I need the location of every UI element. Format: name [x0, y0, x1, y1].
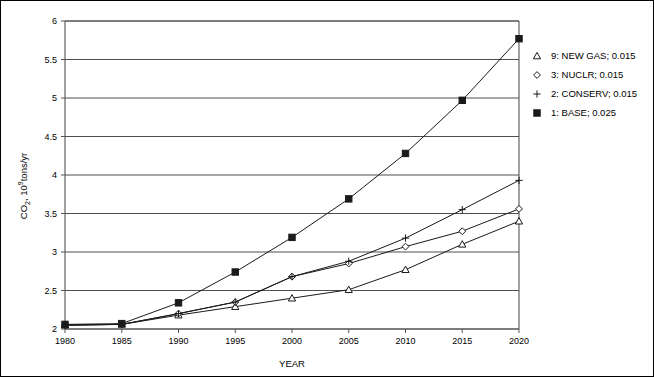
x-axis-title: YEAR: [279, 358, 305, 369]
svg-text:CO2, 109tons/yr: CO2, 109tons/yr: [17, 153, 31, 219]
data-point-base: [402, 150, 408, 156]
x-tick-label: 1995: [225, 336, 245, 346]
line-chart: 22.533.544.555.56 1980198519901995200020…: [1, 1, 654, 377]
series-nuclr: [62, 205, 523, 328]
series-line-conserv: [65, 180, 519, 325]
x-tick-label: 2010: [395, 336, 415, 346]
data-point-conserv: [459, 206, 466, 213]
x-tick-label: 1985: [112, 336, 132, 346]
data-point-nuclr: [459, 228, 466, 235]
y-axis-title-mid: , 10: [18, 185, 29, 201]
y-tick-label: 6: [52, 16, 57, 26]
data-point-new_gas: [515, 218, 522, 224]
data-point-base: [346, 196, 352, 202]
y-tick-label: 2.5: [44, 286, 57, 296]
data-point-new_gas: [402, 266, 409, 272]
x-tick-label: 2020: [509, 336, 529, 346]
legend-marker-2: [533, 90, 540, 97]
data-point-base: [516, 36, 522, 42]
series-conserv: [61, 177, 522, 329]
y-axis-title-base: CO: [18, 205, 29, 219]
legend-item-2[interactable]: 2: CONSERV; 0.015: [533, 88, 637, 99]
chart-figure: 22.533.544.555.56 1980198519901995200020…: [0, 0, 654, 377]
data-point-conserv: [515, 177, 522, 184]
y-axis-title: CO2, 109tons/yr: [17, 153, 31, 219]
x-tick-label: 1990: [168, 336, 188, 346]
data-point-base: [289, 234, 295, 240]
y-tick-label: 5: [52, 93, 57, 103]
series-line-base: [65, 39, 519, 325]
data-point-base: [62, 321, 68, 327]
data-point-base: [119, 320, 125, 326]
x-axis-tick-labels: 198019851990199520002005201020152020: [55, 336, 529, 346]
data-series-group: [61, 36, 522, 329]
y-axis-tick-labels: 22.533.544.555.56: [44, 16, 57, 334]
gridlines: [65, 21, 519, 329]
series-line-nuclr: [65, 209, 519, 325]
legend-marker-3: [534, 110, 540, 116]
legend-marker-0: [533, 52, 540, 58]
x-tick-label: 2015: [452, 336, 472, 346]
data-point-conserv: [288, 273, 295, 280]
legend-marker-1: [534, 72, 541, 79]
data-point-nuclr: [516, 205, 523, 212]
x-tick-label: 2005: [339, 336, 359, 346]
data-point-nuclr: [402, 243, 409, 250]
data-point-conserv: [232, 298, 239, 305]
data-point-conserv: [402, 235, 409, 242]
data-point-new_gas: [459, 241, 466, 247]
x-tick-label: 1980: [55, 336, 75, 346]
series-base: [62, 36, 522, 328]
legend-label-0: 9: NEW GAS; 0.015: [551, 50, 635, 61]
data-point-base: [232, 269, 238, 275]
x-tick-label: 2000: [282, 336, 302, 346]
y-tick-label: 2: [52, 324, 57, 334]
legend-item-0[interactable]: 9: NEW GAS; 0.015: [533, 50, 635, 61]
legend-label-3: 1: BASE; 0.025: [551, 107, 616, 118]
y-tick-label: 4: [52, 170, 57, 180]
data-point-base: [459, 97, 465, 103]
legend-label-1: 3: NUCLR; 0.015: [551, 69, 623, 80]
legend: 9: NEW GAS; 0.0153: NUCLR; 0.0152: CONSE…: [533, 50, 637, 118]
legend-item-3[interactable]: 1: BASE; 0.025: [534, 107, 616, 118]
y-tick-label: 4.5: [44, 132, 57, 142]
y-tick-label: 5.5: [44, 55, 57, 65]
y-axis-title-tail: tons/yr: [18, 153, 29, 182]
axis-tickmarks: [61, 21, 519, 333]
legend-label-2: 2: CONSERV; 0.015: [551, 88, 637, 99]
data-point-base: [175, 300, 181, 306]
legend-item-1[interactable]: 3: NUCLR; 0.015: [534, 69, 624, 80]
y-tick-label: 3.5: [44, 209, 57, 219]
y-tick-label: 3: [52, 247, 57, 257]
